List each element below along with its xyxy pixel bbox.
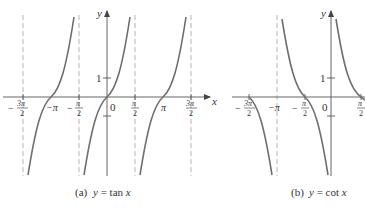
svg-text:2: 2 — [359, 109, 363, 118]
svg-text:3π: 3π — [243, 99, 253, 108]
svg-text:π: π — [76, 99, 81, 108]
x-tick-label-cot-neg-pi-2: − π 2 — [292, 99, 309, 118]
x-tick-label-3pi-2: 3π 2 — [185, 99, 197, 118]
x-tick-label-cot-pi-2: π 2 — [357, 99, 365, 118]
svg-text:π: π — [358, 99, 363, 108]
origin-label-tan: 0 — [110, 101, 116, 113]
x-tick-label-neg-pi: −π — [46, 102, 59, 113]
caption-tan: (a) y = tan x — [75, 186, 131, 199]
svg-text:−: − — [8, 103, 14, 114]
y-axis-label-cot: y — [320, 7, 326, 19]
svg-text:π: π — [302, 99, 307, 108]
origin-label-cot: 0 — [322, 101, 328, 113]
tan-branch-left — [28, 17, 74, 175]
svg-text:−: − — [292, 103, 298, 114]
svg-text:y = cot x: y = cot x — [308, 186, 347, 198]
svg-text:−: − — [235, 103, 241, 114]
panel-tan: y x 1 0 − 3π 2 −π − π 2 π 2 π 3π — [3, 7, 217, 199]
x-tick-label-neg-pi-2: − π 2 — [67, 99, 83, 118]
svg-text:(a): (a) — [75, 186, 88, 199]
x-tick-label-neg-3pi-2: − 3π 2 — [8, 99, 28, 118]
svg-text:y = tan x: y = tan x — [92, 186, 131, 198]
svg-text:2: 2 — [77, 109, 81, 118]
x-tick-label-cot-neg-pi: −π — [268, 102, 281, 113]
x-tick-label-pi-2: π 2 — [131, 99, 139, 118]
svg-text:2: 2 — [20, 109, 24, 118]
tan-branch-right — [140, 17, 186, 175]
svg-text:2: 2 — [133, 109, 137, 118]
caption-cot: (b) y = cot x — [291, 186, 347, 199]
y-tick-1-tan: 1 — [96, 72, 102, 84]
panel-cot: y 1 0 − 3π 2 −π − π 2 π 2 (b) y = co — [232, 7, 365, 199]
svg-text:2: 2 — [247, 109, 251, 118]
y-tick-1-cot: 1 — [320, 72, 326, 84]
svg-text:3π: 3π — [185, 99, 195, 108]
cot-branch-right — [336, 19, 365, 100]
x-axis-label-tan: x — [211, 95, 217, 107]
svg-text:−: − — [67, 103, 73, 114]
trig-graphs-figure: y x 1 0 − 3π 2 −π − π 2 π 2 π 3π — [0, 0, 365, 211]
svg-text:3π: 3π — [16, 99, 26, 108]
svg-text:2: 2 — [303, 109, 307, 118]
svg-text:π: π — [132, 99, 137, 108]
x-tick-label-cot-neg-3pi-2: − 3π 2 — [235, 99, 255, 118]
svg-text:(b): (b) — [291, 186, 304, 199]
x-tick-label-pi: π — [161, 102, 167, 113]
y-axis-label-tan: y — [96, 7, 102, 19]
svg-text:2: 2 — [189, 109, 193, 118]
